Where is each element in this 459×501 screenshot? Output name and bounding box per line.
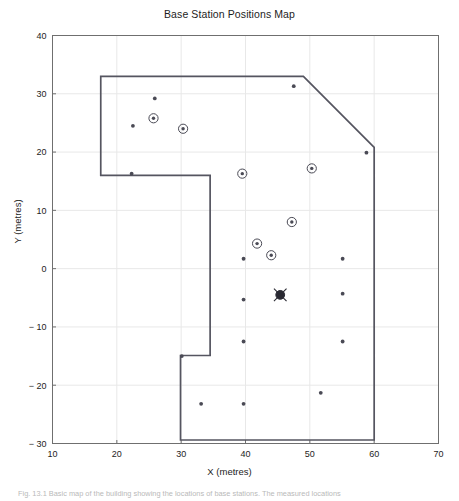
data-point <box>242 402 246 406</box>
data-point <box>287 217 296 226</box>
data-point <box>149 114 158 123</box>
data-point <box>180 354 184 358</box>
figure-container: Base Station Positions Map 1020304050607… <box>0 0 459 501</box>
svg-text:− 10: − 10 <box>29 322 47 332</box>
x-tick-labels: 10203040506070 <box>47 449 443 459</box>
y-axis-label: Y (metres) <box>12 177 23 267</box>
data-point <box>292 84 296 88</box>
data-point <box>130 172 134 176</box>
svg-text:10: 10 <box>36 206 46 216</box>
data-point <box>178 124 187 133</box>
data-point <box>365 151 369 155</box>
data-point <box>242 257 246 261</box>
svg-text:40: 40 <box>36 31 46 41</box>
data-point <box>307 164 316 173</box>
svg-text:30: 30 <box>36 89 46 99</box>
svg-text:− 30: − 30 <box>29 439 47 449</box>
svg-text:40: 40 <box>240 449 250 459</box>
data-point <box>267 251 276 260</box>
data-points <box>130 84 369 405</box>
data-point <box>274 289 287 302</box>
data-point <box>242 298 246 302</box>
data-point <box>341 257 345 261</box>
gridlines <box>53 36 439 444</box>
data-point <box>153 97 157 101</box>
data-point <box>252 239 261 248</box>
svg-text:0: 0 <box>41 264 46 274</box>
svg-text:20: 20 <box>36 147 46 157</box>
svg-text:10: 10 <box>47 449 57 459</box>
svg-text:70: 70 <box>433 449 443 459</box>
x-axis-label: X (metres) <box>0 466 459 477</box>
scatter-plot: 10203040506070 − 30− 20− 10010203040 <box>0 0 459 501</box>
y-tick-labels: − 30− 20− 10010203040 <box>29 31 47 449</box>
svg-text:− 20: − 20 <box>29 381 47 391</box>
data-point <box>131 124 135 128</box>
svg-text:60: 60 <box>369 449 379 459</box>
svg-text:30: 30 <box>176 449 186 459</box>
data-point <box>341 340 345 344</box>
data-point <box>199 402 203 406</box>
svg-text:20: 20 <box>112 449 122 459</box>
data-point <box>242 340 246 344</box>
svg-text:50: 50 <box>305 449 315 459</box>
figure-caption: Fig. 13.1 Basic map of the building show… <box>18 489 448 499</box>
data-point <box>319 391 323 395</box>
data-point <box>341 292 345 296</box>
